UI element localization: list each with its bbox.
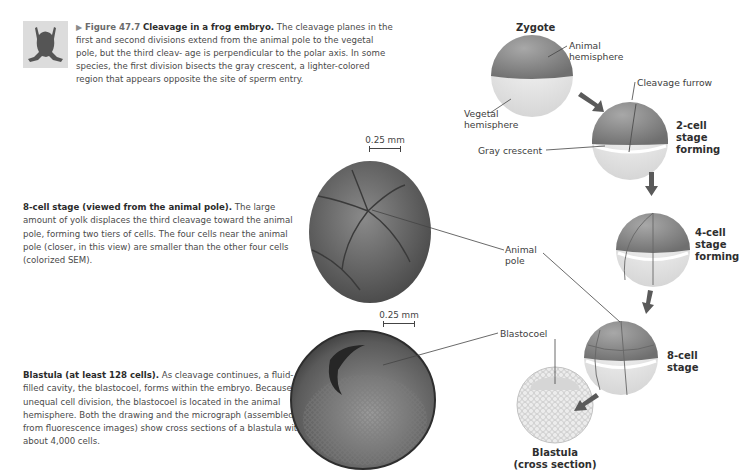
animal-hemisphere-label: Animal hemisphere	[569, 40, 623, 62]
stage-line: Blastula	[505, 447, 605, 459]
stage-line: (cross section)	[505, 459, 605, 471]
gray-crescent-label: Gray crescent	[478, 145, 542, 156]
eight-cell-stage-label: 8-cell stage	[667, 350, 698, 374]
label-line: hemisphere	[464, 119, 518, 130]
label-line: hemisphere	[569, 51, 623, 62]
arrow-icon	[578, 92, 604, 112]
label-line: Animal	[569, 40, 623, 51]
sem-eight-cell-photo	[309, 161, 431, 303]
stage-line: 4-cell	[695, 227, 739, 239]
two-cell-stage-label: 2-cell stage forming	[676, 120, 720, 156]
four-cell-illustration	[616, 213, 690, 287]
stage-line: forming	[695, 251, 739, 263]
stage-line: 2-cell	[676, 120, 720, 132]
stage-line: stage	[667, 362, 698, 374]
label-line: Animal	[505, 244, 537, 255]
four-cell-stage-label: 4-cell stage forming	[695, 227, 739, 263]
eight-cell-illustration	[584, 321, 658, 395]
blastula-micrograph	[291, 331, 435, 469]
label-line: pole	[505, 255, 537, 266]
cleavage-furrow-label: Cleavage furrow	[637, 77, 712, 88]
zygote-illustration	[491, 35, 573, 117]
vegetal-hemisphere-label: Vegetal hemisphere	[464, 108, 518, 130]
blastula-stage-label: Blastula (cross section)	[505, 447, 605, 471]
stage-line: forming	[676, 144, 720, 156]
stage-line: stage	[695, 239, 739, 251]
figure-graphics	[0, 0, 750, 473]
arrow-icon	[642, 290, 654, 314]
animal-pole-label: Animal pole	[505, 244, 537, 266]
zygote-label: Zygote	[516, 22, 555, 34]
two-cell-illustration	[592, 102, 668, 180]
blastocoel-label: Blastocoel	[500, 328, 547, 339]
stage-line: stage	[676, 132, 720, 144]
stage-line: 8-cell	[667, 350, 698, 362]
label-line: Vegetal	[464, 108, 518, 119]
